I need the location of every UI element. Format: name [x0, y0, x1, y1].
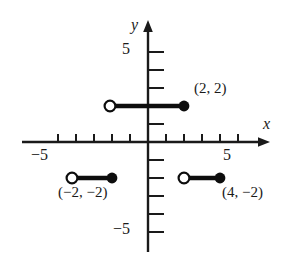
y-tick-label-negative-five: −5 — [113, 220, 130, 238]
closed-endpoint-marker — [215, 173, 226, 184]
open-endpoint-marker — [105, 101, 116, 112]
y-tick-label-five: 5 — [122, 40, 130, 58]
open-endpoint-marker — [179, 173, 190, 184]
point-label-lower-left-segment: (−2, −2) — [58, 184, 107, 201]
point-label-upper-segment: (2, 2) — [194, 80, 227, 97]
y-axis-label: y — [131, 16, 138, 34]
x-axis-label: x — [263, 115, 270, 133]
point-label-lower-right-segment: (4, −2) — [222, 184, 263, 201]
x-axis — [22, 137, 270, 147]
lower-left-segment — [67, 173, 118, 184]
graph-canvas — [0, 0, 306, 269]
coordinate-plane-figure: y x −5 5 5 −5 (2, 2) (−2, −2) (4, −2) — [0, 0, 306, 269]
closed-endpoint-marker — [179, 101, 190, 112]
x-tick-label-negative-five: −5 — [31, 146, 48, 164]
y-axis — [143, 20, 153, 252]
x-tick-label-five: 5 — [223, 146, 231, 164]
closed-endpoint-marker — [107, 173, 118, 184]
open-endpoint-marker — [67, 173, 78, 184]
lower-right-segment — [179, 173, 226, 184]
